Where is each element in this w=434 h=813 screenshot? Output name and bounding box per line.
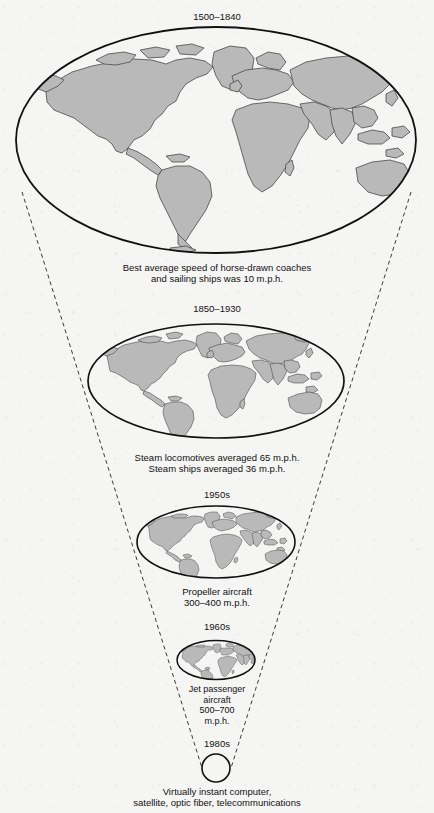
shrinking-world-diagram: 1500–1840 — [0, 0, 434, 813]
stage-5-caption: Virtually instant computer, satellite, o… — [0, 786, 434, 808]
stage-5-globe-outline — [202, 754, 230, 782]
stage-5-globe — [0, 0, 434, 813]
